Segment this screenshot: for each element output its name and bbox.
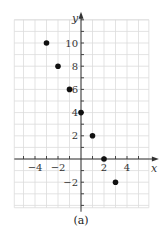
data-point (78, 110, 84, 116)
data-point (44, 40, 50, 46)
y-tick-label: 4 (72, 107, 78, 118)
data-point (67, 87, 73, 93)
y-tick-label: 6 (72, 84, 78, 95)
y-tick-label: 8 (72, 61, 78, 72)
x-tick-label: 2 (101, 162, 107, 173)
y-tick-label: 2 (72, 130, 78, 141)
x-tick-label: 4 (124, 162, 130, 173)
x-axis-arrow-icon (152, 157, 159, 162)
y-axis-arrow-icon (79, 12, 84, 19)
y-tick-label: 10 (65, 38, 78, 49)
y-tick-label: −2 (63, 177, 78, 188)
data-point (90, 133, 96, 139)
y-axis-label: y (71, 12, 79, 25)
figure-caption: (a) (73, 214, 88, 227)
x-tick-label: −2 (51, 162, 66, 173)
data-point (101, 156, 107, 162)
axes (14, 12, 159, 212)
x-axis-label: x (151, 162, 158, 175)
scatter-chart: −4−224−2246810 x y (a) (0, 0, 167, 230)
data-point (55, 63, 61, 69)
x-tick-label: −4 (28, 162, 43, 173)
data-point (113, 179, 119, 185)
